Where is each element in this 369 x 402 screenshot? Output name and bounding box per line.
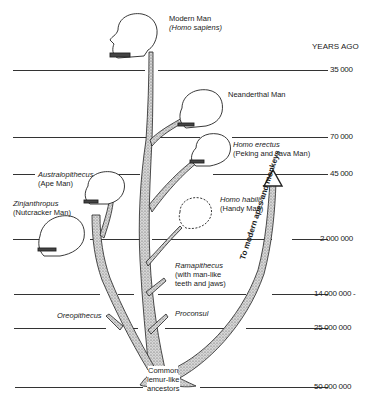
label-zinjanthropus: Zinjanthropus [13, 199, 58, 208]
label-oreopithecus: Oreopithecus [57, 311, 102, 320]
years-ago-header: YEARS AGO [312, 42, 359, 51]
main-trunk [139, 52, 168, 382]
neanderthal-branch [150, 118, 184, 146]
label-proconsul: Proconsul [175, 309, 208, 318]
zinjanthropus-skull [38, 216, 84, 256]
label-nutcracker-man: (Nutcracker Man) [13, 208, 71, 217]
homo-habilis-skull [179, 198, 211, 229]
year-label-25000000: 25 000 000 [314, 323, 351, 332]
label-ape-man: (Ape Man) [38, 179, 73, 188]
label-common-ancestors-2: lemur-like [147, 375, 180, 384]
label-common-ancestors-1: Common [148, 366, 178, 375]
label-ramapithecus: Ramapithecus [175, 261, 223, 270]
label-ramapithecus-line3: teeth and jaws) [175, 279, 226, 288]
label-modern-man: Modern Man [169, 14, 211, 23]
year-label-35000: 35 000 [330, 65, 353, 74]
neanderthal-skull [178, 90, 222, 128]
year-label-70000: 70 000 [330, 132, 353, 141]
modern-man-skull [110, 14, 157, 58]
label-neanderthal: Neanderthal Man [228, 90, 286, 99]
year-label-45000: 45 000 [330, 169, 353, 178]
homo-erectus-skull [190, 134, 231, 166]
year-label-50000000: 50 000 000 [314, 382, 351, 391]
label-australopithecus: Australopithecus [38, 170, 93, 179]
year-label-14000000: 14 000 000 - [314, 289, 355, 298]
label-ramapithecus-line2: (with man-like [175, 270, 221, 279]
label-homo-sapiens: (Homo sapiens) [169, 23, 222, 32]
homo-habilis-branch [146, 226, 182, 266]
year-label-2000000: 2 000 000 [320, 234, 353, 243]
label-common-ancestors-3: ancestors [147, 384, 180, 393]
